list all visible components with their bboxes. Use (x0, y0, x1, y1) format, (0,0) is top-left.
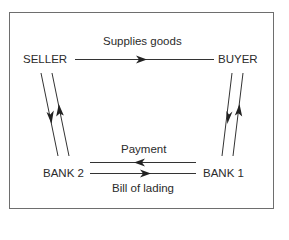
arrowhead-up-icon (235, 104, 242, 117)
seller-node: SELLER (23, 53, 67, 65)
bank1-node: BANK 1 (203, 167, 244, 179)
buyer-node: BUYER (218, 53, 258, 65)
bill-of-lading-label: Bill of lading (112, 182, 174, 194)
bank2-node: BANK 2 (43, 167, 84, 179)
arrowhead-up-icon (56, 104, 64, 117)
bank2-to-seller-line (52, 73, 69, 156)
arrowhead-down-icon (47, 111, 54, 125)
arrowhead-down-icon (226, 111, 232, 124)
payment-label: Payment (121, 143, 166, 155)
supplies-goods-label: Supplies goods (103, 35, 182, 47)
